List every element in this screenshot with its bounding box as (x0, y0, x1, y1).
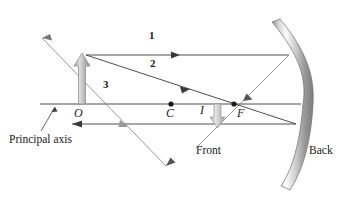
ray-diagram-figure: 1 2 3 O C I F Principal axis Front Back (0, 0, 342, 198)
principal-axis-label: Principal axis (9, 134, 72, 146)
ray-diagram-canvas (0, 0, 342, 198)
object-point-label: O (74, 107, 83, 119)
focal-point-label: F (237, 107, 244, 119)
ray-2-label: 2 (150, 58, 156, 69)
center-of-curvature-label: C (166, 107, 174, 119)
back-label: Back (309, 145, 333, 157)
ray-3 (42, 34, 176, 166)
principal-axis-leader (41, 107, 58, 131)
ray-1-label: 1 (149, 30, 155, 41)
ray-3-label: 3 (103, 79, 109, 90)
image-point-label: I (200, 104, 204, 116)
object-arrow (74, 53, 90, 104)
concave-mirror (272, 19, 313, 190)
front-label: Front (196, 145, 221, 157)
ray-2 (72, 55, 296, 128)
ray-1 (86, 52, 289, 149)
point-marker-F (231, 101, 236, 106)
